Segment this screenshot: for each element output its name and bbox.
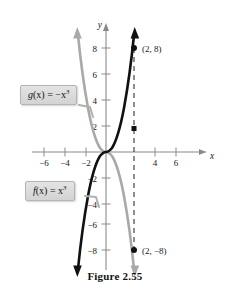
y-tick-label-neg8: −8 xyxy=(87,246,97,256)
y-tick-label-4: 4 xyxy=(93,96,98,106)
callout-f-expression: (x) = x xyxy=(36,185,63,196)
point-2-neg8-group: (2, −8) xyxy=(131,246,167,256)
point-2-8 xyxy=(131,45,137,51)
curve-f-arrow-top-icon xyxy=(131,27,140,39)
y-tick-label-8: 8 xyxy=(93,44,98,54)
x-axis-label: x xyxy=(209,151,215,161)
x-tick-label-neg6: −6 xyxy=(39,158,49,168)
y-tick-label-neg4: −4 xyxy=(87,200,97,210)
y-tick-label-6: 6 xyxy=(93,70,98,80)
callout-g-expression: (x) = −x xyxy=(33,89,66,100)
x-tick-label-neg4: −4 xyxy=(60,158,70,168)
point-2-neg8-label: (2, −8) xyxy=(142,246,167,256)
x-axis-arrow-icon xyxy=(199,149,206,155)
y-axis-arrow-icon xyxy=(103,23,109,31)
point-2-8-group: (2, 8) xyxy=(131,44,162,54)
x-tick-label-neg2: −2 xyxy=(81,158,91,168)
x-tick-label-4: 4 xyxy=(153,158,158,168)
curve-g-arrow-top-icon xyxy=(73,27,82,39)
figure-caption: Figure 2.55 xyxy=(0,270,230,282)
callout-g-exponent: 3 xyxy=(66,88,70,96)
x-tick-label-6: 6 xyxy=(174,158,179,168)
x-axis-group: −6 −4 −2 4 6 x xyxy=(32,148,215,169)
dashed-connector-group xyxy=(132,48,137,250)
dashed-connector-midpoint-marker xyxy=(132,126,137,131)
y-axis-label: y xyxy=(97,20,103,30)
callout-f-box: f(x) = x3 xyxy=(25,181,75,201)
callout-g-leader-line xyxy=(79,105,93,117)
figure-container: −6 −4 −2 4 6 x 8 6 4 2 −2 −4 −6 xyxy=(0,0,230,291)
y-tick-label-neg6: −6 xyxy=(87,220,97,230)
cubic-functions-plot: −6 −4 −2 4 6 x 8 6 4 2 −2 −4 −6 xyxy=(0,0,230,291)
point-2-8-label: (2, 8) xyxy=(142,44,162,54)
point-2-neg8 xyxy=(131,247,137,253)
callout-f-exponent: 3 xyxy=(63,184,67,192)
callout-g-box: g(x) = −x3 xyxy=(20,85,77,105)
